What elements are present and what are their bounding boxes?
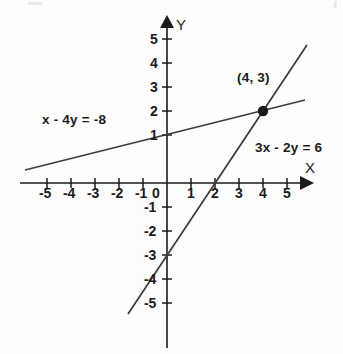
equation-label-line1: x - 4y = -8 <box>42 113 106 127</box>
x-tick-label: 3 <box>235 186 243 200</box>
intersection-point-label: (4, 3) <box>237 71 270 85</box>
y-tick-label: 1 <box>150 128 158 142</box>
intersection-point-marker <box>258 106 268 116</box>
x-tick-label: 5 <box>283 186 291 200</box>
x-tick-label: -5 <box>39 186 51 200</box>
x-tick-label: 1 <box>187 186 195 200</box>
y-tick-label: -5 <box>144 296 156 310</box>
plot-canvas <box>0 0 343 354</box>
x-tick-label: -2 <box>111 186 123 200</box>
x-tick-label: 2 <box>211 186 219 200</box>
x-tick-label: -4 <box>63 186 75 200</box>
y-tick-label: -4 <box>144 272 156 286</box>
y-tick-label: 3 <box>150 80 158 94</box>
y-tick-label: -3 <box>144 248 156 262</box>
x-axis-arrowhead <box>300 176 314 190</box>
y-tick-label: 4 <box>150 56 158 70</box>
y-axis-label: Y <box>176 17 186 32</box>
line-graph-figure: Y X 0 -5 -4 -3 -2 -1 1 2 3 4 5 5 4 3 2 1… <box>0 0 343 354</box>
x-tick-label: -1 <box>135 186 147 200</box>
x-tick-label: 4 <box>259 186 267 200</box>
y-axis-arrowhead <box>160 15 174 28</box>
x-tick-label: -3 <box>87 186 99 200</box>
y-tick-label: -2 <box>144 224 156 238</box>
x-axis-label: X <box>305 160 315 175</box>
y-tick-label: 2 <box>150 104 158 118</box>
origin-label: 0 <box>152 186 160 200</box>
y-tick-label: -1 <box>144 200 156 214</box>
equation-label-line2: 3x - 2y = 6 <box>255 141 322 155</box>
y-tick-label: 5 <box>150 32 158 46</box>
